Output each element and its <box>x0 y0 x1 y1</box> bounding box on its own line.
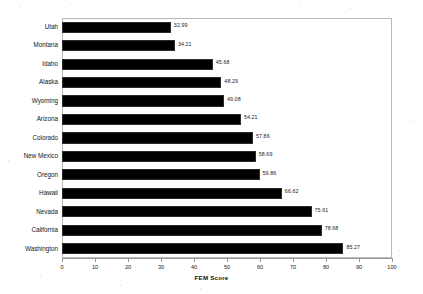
x-tick <box>359 258 360 262</box>
bar-row: 54.21 <box>62 110 392 128</box>
bar-value-label: 66.62 <box>285 186 299 197</box>
category-label: Utah <box>0 18 58 36</box>
bar-value-label: 48.29 <box>224 76 238 87</box>
bar-value-label: 75.61 <box>315 205 329 216</box>
bar-row: 75.61 <box>62 203 392 221</box>
scan-speck <box>120 285 121 286</box>
bar-value-label: 85.27 <box>346 242 360 253</box>
x-tick-label: 100 <box>387 264 396 270</box>
bar <box>62 77 221 88</box>
bar-row: 66.62 <box>62 184 392 202</box>
bar-value-label: 58.69 <box>259 149 273 160</box>
bar <box>62 59 213 70</box>
bar <box>62 40 175 51</box>
scan-speck <box>20 6 21 7</box>
bar-value-label: 45.68 <box>216 57 230 68</box>
bar <box>62 151 256 162</box>
category-label: Wyoming <box>0 92 58 110</box>
bar-row: 78.68 <box>62 221 392 239</box>
x-tick <box>392 258 393 262</box>
bar-row: 85.27 <box>62 240 392 258</box>
category-label: Nevada <box>0 203 58 221</box>
bar-row: 57.86 <box>62 129 392 147</box>
scan-speck <box>300 5 301 6</box>
x-tick-label: 50 <box>224 264 230 270</box>
x-tick-label: 70 <box>290 264 296 270</box>
category-label: Montana <box>0 36 58 54</box>
bar <box>62 169 260 180</box>
bar-value-label: 34.21 <box>178 39 192 50</box>
bar <box>62 225 322 236</box>
bar <box>62 188 282 199</box>
x-tick <box>95 258 96 262</box>
x-tick-label: 20 <box>125 264 131 270</box>
bar-row: 48.29 <box>62 73 392 91</box>
scan-speck <box>350 8 351 9</box>
x-tick <box>227 258 228 262</box>
x-tick <box>62 258 63 262</box>
x-tick-label: 90 <box>356 264 362 270</box>
bar-row: 45.68 <box>62 55 392 73</box>
bar-row: 58.69 <box>62 147 392 165</box>
x-tick <box>161 258 162 262</box>
x-tick-label: 10 <box>92 264 98 270</box>
x-tick-label: 80 <box>323 264 329 270</box>
bar-row: 34.21 <box>62 36 392 54</box>
bar-chart: UtahMontanaIdahoAlaskaWyomingArizonaColo… <box>0 0 423 294</box>
bar <box>62 243 343 254</box>
bar-value-label: 54.21 <box>244 112 258 123</box>
bar-value-label: 59.86 <box>263 168 277 179</box>
bar <box>62 114 241 125</box>
scan-speck <box>70 4 71 5</box>
category-label: Idaho <box>0 55 58 73</box>
x-tick-label: 0 <box>60 264 63 270</box>
scan-speck <box>399 250 400 251</box>
category-label: Arizona <box>0 110 58 128</box>
bar <box>62 206 312 217</box>
bar <box>62 22 171 33</box>
bar <box>62 132 253 143</box>
category-label: California <box>0 221 58 239</box>
category-label: Colorado <box>0 129 58 147</box>
scan-speck <box>410 120 411 121</box>
x-tick <box>260 258 261 262</box>
bar <box>62 95 224 106</box>
category-label: New Mexico <box>0 147 58 165</box>
bar-row: 49.08 <box>62 92 392 110</box>
x-tick-label: 30 <box>158 264 164 270</box>
x-tick <box>194 258 195 262</box>
x-tick <box>293 258 294 262</box>
bars-container: 32.9934.2145.6848.2949.0854.2157.8658.69… <box>62 18 392 258</box>
scan-speck <box>40 275 41 276</box>
bar-row: 32.99 <box>62 18 392 36</box>
x-axis-title: FEM Score <box>0 274 423 281</box>
category-label: Hawaii <box>0 184 58 202</box>
x-tick <box>128 258 129 262</box>
bar-value-label: 49.08 <box>227 94 241 105</box>
x-tick-label: 60 <box>257 264 263 270</box>
category-axis-labels: UtahMontanaIdahoAlaskaWyomingArizonaColo… <box>0 18 58 258</box>
category-label: Oregon <box>0 166 58 184</box>
bar-row: 59.86 <box>62 166 392 184</box>
x-tick-label: 40 <box>191 264 197 270</box>
scan-speck <box>200 288 201 289</box>
bar-value-label: 32.99 <box>174 20 188 31</box>
category-label: Alaska <box>0 73 58 91</box>
bar-value-label: 78.68 <box>325 223 339 234</box>
bar-value-label: 57.86 <box>256 131 270 142</box>
scan-speck <box>8 160 9 161</box>
category-label: Washington <box>0 240 58 258</box>
x-tick <box>326 258 327 262</box>
